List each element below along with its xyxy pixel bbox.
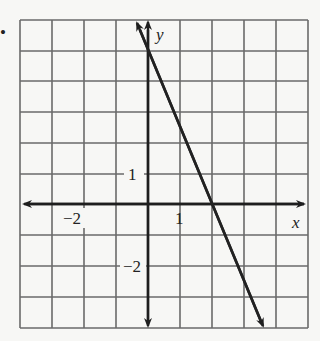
- y-tick-1: 1: [128, 165, 137, 184]
- x-axis-label: x: [291, 213, 300, 232]
- grid: [20, 20, 308, 328]
- y-tick-neg2: −2: [123, 257, 141, 276]
- coordinate-plane: • y x 1 −2 −2 1: [0, 0, 320, 341]
- x-tick-1: 1: [175, 209, 184, 228]
- problem-bullet: •: [0, 23, 6, 42]
- x-tick-neg2: −2: [63, 209, 81, 228]
- y-axis-label: y: [154, 25, 164, 44]
